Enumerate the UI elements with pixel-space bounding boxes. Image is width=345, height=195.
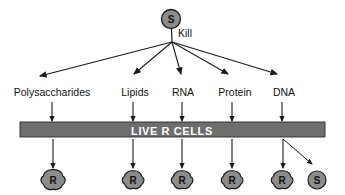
- result-cell-3-letter: R: [178, 175, 186, 186]
- diagram-canvas: S Kill Polysaccharides Lipids RNA Protei…: [0, 0, 345, 195]
- kill-stem-line: [172, 29, 173, 42]
- result-cell-1: R: [41, 170, 65, 190]
- live-r-cells-bar-label: LIVE R CELLS: [131, 125, 213, 137]
- result-cell-4-letter: R: [228, 175, 236, 186]
- kill-fan-arrows: [40, 42, 277, 76]
- result-cell-3: R: [171, 171, 193, 189]
- arrow-to-dna: [172, 42, 277, 74]
- bar-to-result-arrows: [53, 139, 312, 168]
- component-to-bar-arrows: [52, 102, 282, 121]
- arrow-dna-transformation-to-s: [283, 139, 312, 164]
- source-s-cell: S: [162, 10, 181, 29]
- result-cell-5-letter: R: [278, 175, 286, 186]
- result-cell-5: R: [271, 171, 293, 189]
- transformed-s-cell-letter: S: [314, 175, 321, 186]
- result-cell-1-letter: R: [49, 175, 57, 186]
- component-label-lipids: Lipids: [121, 86, 148, 98]
- component-label-protein: Protein: [218, 86, 251, 98]
- component-label-rna: RNA: [172, 86, 194, 98]
- result-cell-2: R: [122, 171, 144, 189]
- s-cell-letter: S: [168, 14, 175, 25]
- transforming-principle-diagram: S Kill Polysaccharides Lipids RNA Protei…: [0, 0, 345, 195]
- live-r-cells-bar: LIVE R CELLS: [20, 122, 325, 137]
- kill-label: Kill: [178, 27, 192, 39]
- component-label-polysaccharides: Polysaccharides: [14, 86, 90, 98]
- result-cell-transformed-s: S: [308, 171, 326, 189]
- result-cell-2-letter: R: [129, 175, 137, 186]
- result-cell-4: R: [221, 171, 243, 189]
- component-label-dna: DNA: [273, 86, 295, 98]
- arrow-to-protein: [172, 42, 228, 74]
